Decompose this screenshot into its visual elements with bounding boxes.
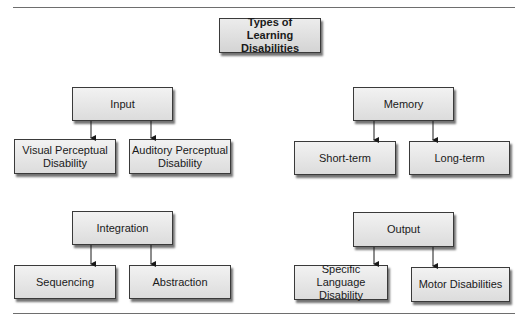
node-sequencing: Sequencing: [14, 265, 116, 299]
node-memory: Memory: [353, 87, 454, 121]
node-input: Input: [72, 87, 173, 121]
node-label: Integration: [97, 222, 149, 235]
node-label: Input: [110, 98, 134, 111]
node-label: Long-term: [434, 152, 484, 165]
bottom-rule: [13, 313, 515, 314]
title-text: Types of Learning Disabilities: [230, 16, 310, 55]
node-specific-language-disability: Specific Language Disability: [294, 265, 388, 300]
node-label: Abstraction: [152, 276, 207, 289]
node-long-term: Long-term: [409, 141, 510, 175]
node-motor-disabilities: Motor Disabilities: [411, 267, 510, 302]
node-short-term: Short-term: [294, 141, 396, 175]
node-output: Output: [353, 212, 454, 247]
node-visual-perceptual-disability: Visual Perceptual Disability: [14, 139, 116, 174]
node-label: Specific Language Disability: [296, 263, 386, 302]
node-label: Auditory Perceptual Disability: [132, 144, 228, 170]
node-auditory-perceptual-disability: Auditory Perceptual Disability: [129, 139, 231, 174]
node-abstraction: Abstraction: [129, 265, 231, 299]
node-label: Memory: [384, 98, 424, 111]
node-integration: Integration: [72, 211, 173, 245]
node-label: Short-term: [319, 152, 371, 165]
node-label: Visual Perceptual Disability: [19, 144, 111, 170]
top-rule: [13, 7, 515, 8]
node-label: Motor Disabilities: [419, 278, 503, 291]
node-label: Output: [387, 223, 420, 236]
node-label: Sequencing: [36, 276, 94, 289]
title-box: Types of Learning Disabilities: [219, 18, 321, 53]
